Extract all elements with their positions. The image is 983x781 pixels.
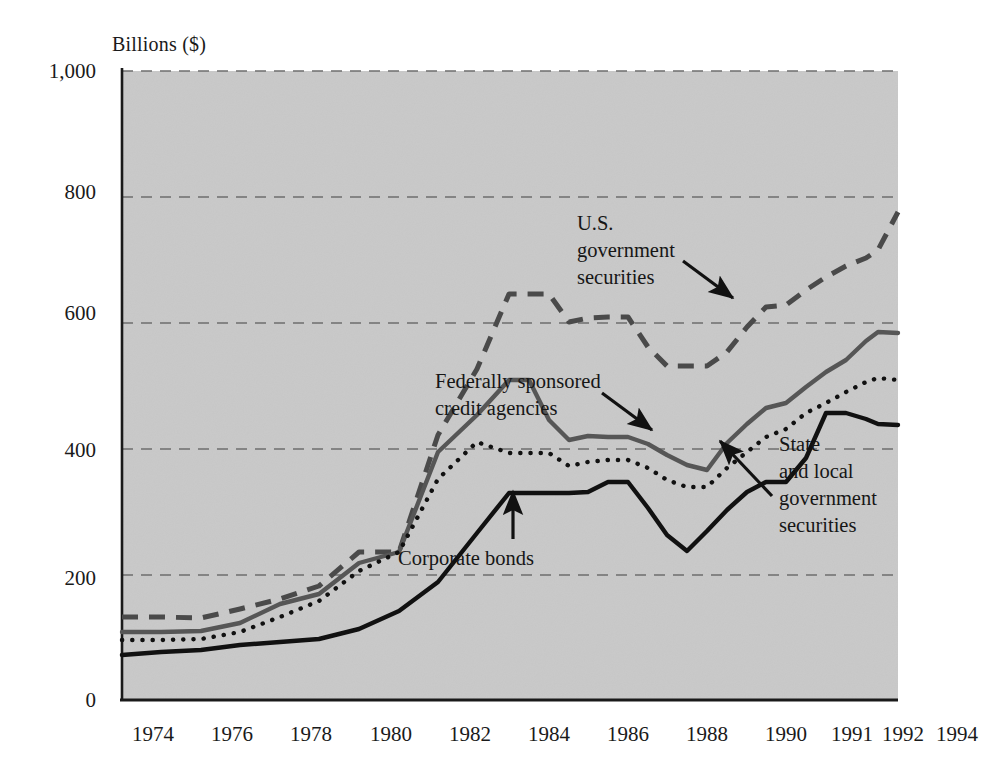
annotation-state-and-local-government-securities: State and local government securities (779, 431, 877, 539)
annotation-us-government-securities: U.S. government securities (577, 210, 675, 291)
annotation-federally-sponsored-credit-agencies: Federally sponsored credit agencies (435, 368, 601, 422)
annotation-corporate-bonds: Corporate bonds (398, 545, 534, 572)
